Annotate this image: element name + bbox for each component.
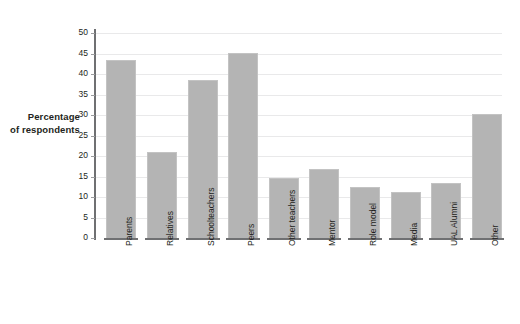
y-tick-label-0: 0: [62, 233, 88, 242]
x-label-other: Other: [491, 225, 500, 246]
gridline-50: [96, 33, 502, 34]
bar-peers: [228, 53, 258, 238]
y-tick-mark-25: [91, 136, 95, 137]
gridline-25: [96, 136, 502, 137]
gridline-30: [96, 115, 502, 116]
y-tick-mark-0: [91, 238, 95, 239]
gridline-35: [96, 95, 502, 96]
y-tick-mark-40: [91, 74, 95, 75]
y-tick-mark-20: [91, 156, 95, 157]
x-label-parents: Parents: [125, 217, 134, 246]
x-label-role-model: Role model: [369, 203, 378, 246]
x-label-relatives: Relatives: [166, 211, 175, 246]
y-tick-mark-35: [91, 95, 95, 96]
y-tick-mark-5: [91, 218, 95, 219]
y-tick-label-5: 5: [62, 213, 88, 222]
x-label-media: Media: [410, 223, 419, 246]
gridline-40: [96, 74, 502, 75]
gridline-45: [96, 54, 502, 55]
y-tick-label-45: 45: [62, 49, 88, 58]
y-tick-label-40: 40: [62, 69, 88, 78]
x-label-peers: Peers: [247, 224, 256, 246]
y-tick-label-15: 15: [62, 172, 88, 181]
y-tick-label-35: 35: [62, 90, 88, 99]
y-tick-label-10: 10: [62, 192, 88, 201]
y-tick-mark-15: [91, 177, 95, 178]
bar-other: [472, 114, 502, 238]
y-tick-mark-50: [91, 33, 95, 34]
y-tick-mark-30: [91, 115, 95, 116]
plot-area: [96, 33, 502, 238]
bar-chart: Percentage of respondents 50454035302520…: [0, 0, 520, 324]
x-label-schoolteachers: Schoolteachers: [207, 187, 216, 246]
x-label-mentor: Mentor: [328, 220, 337, 246]
x-label-other-teachers: Other teachers: [288, 190, 297, 246]
y-tick-label-30: 30: [62, 110, 88, 119]
y-tick-label-25: 25: [62, 131, 88, 140]
bar-parents: [106, 60, 136, 238]
y-tick-mark-45: [91, 54, 95, 55]
y-tick-label-20: 20: [62, 151, 88, 160]
x-label-ual-alumni: UAL Alumni: [450, 202, 459, 246]
y-tick-mark-10: [91, 197, 95, 198]
y-tick-label-50: 50: [62, 28, 88, 37]
